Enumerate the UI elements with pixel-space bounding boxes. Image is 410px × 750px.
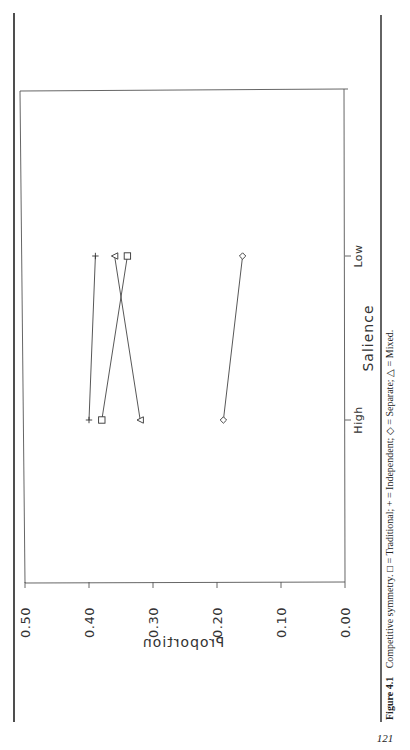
y-axis-title: Proportion (142, 634, 224, 650)
plus-marker-icon (86, 417, 92, 423)
x-tick-label: Low (352, 244, 365, 267)
figure-page: 0.000.100.200.300.400.50 HighLow Proport… (0, 0, 410, 750)
series-layer (86, 253, 246, 423)
series-traditional (99, 253, 131, 423)
y-tick-label: 0.40 (82, 607, 97, 638)
proportion-axis-ticks: 0.000.100.200.300.400.50 (18, 582, 353, 638)
figure-caption: Figure 4.1 Competitive symmetry. □ = Tra… (384, 330, 395, 720)
figure-label: Figure 4.1 (384, 677, 395, 720)
series-line (115, 256, 141, 420)
y-tick-label: 0.10 (274, 607, 289, 638)
diamond-marker-icon (239, 253, 245, 259)
series-line (223, 256, 242, 420)
square-marker-icon (99, 417, 105, 423)
series-independent (86, 253, 99, 423)
figure-caption-text: Competitive symmetry. □ = Traditional; +… (384, 330, 395, 669)
y-tick-label: 0.00 (338, 607, 353, 638)
x-axis-title: Salience (360, 304, 376, 371)
y-tick-label: 0.50 (18, 607, 33, 638)
x-tick-label: High (352, 406, 365, 433)
series-line (102, 256, 128, 420)
series-separate (220, 253, 246, 423)
square-marker-icon (124, 253, 130, 259)
series-line (89, 256, 95, 420)
plus-marker-icon (92, 253, 98, 259)
page-number: 121 (377, 732, 394, 744)
series-mixed (111, 253, 143, 423)
plot-frame (20, 89, 348, 583)
diamond-marker-icon (220, 417, 226, 423)
